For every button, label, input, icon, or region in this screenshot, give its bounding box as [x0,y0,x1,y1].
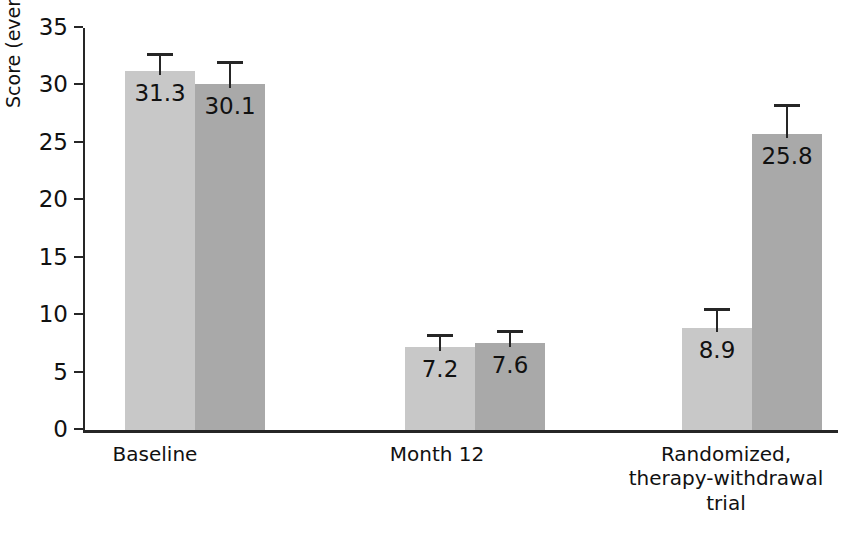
error-bar-stem [159,53,161,74]
plot-area: 05101520253035 31.3 30.1 [83,28,838,430]
bar-value-label: 31.3 [125,82,195,105]
bar-group-baseline: 31.3 30.1 [125,28,265,430]
y-axis-line [83,28,85,430]
x-axis-category-label-month-12: Month 12 [337,442,537,466]
cropped-caption-artifact [60,0,360,3]
bar-group-month-12: 7.2 7.6 [405,28,545,430]
error-bar-stem [716,308,718,332]
bar-rect [125,71,195,431]
y-axis-tick-label: 30 [39,73,68,96]
error-bar-cap [147,53,173,56]
y-axis-tick-label: 5 [53,360,68,383]
x-axis-category-label-baseline: Baseline [55,442,255,466]
y-axis-tick-label: 35 [39,16,68,39]
bar-rect [752,134,822,430]
error-bar-stem [786,104,788,138]
bar-value-label: 30.1 [195,95,265,118]
y-axis-tick: 30 [74,83,83,85]
y-axis-tick: 10 [74,313,83,315]
x-axis-category-label-line: Randomized, [612,442,840,466]
y-axis-tick: 35 [74,26,83,28]
x-axis-category-label-randomized-trial: Randomized,therapy-withdrawaltrial [612,442,840,515]
y-axis-tick-label: 0 [53,418,68,441]
error-bar-cap [704,308,730,311]
bar-rect [195,84,265,430]
x-axis-category-label-line: trial [612,491,840,515]
bar-group-randomized-therapy-withdrawal-trial: 8.9 25.8 [682,28,822,430]
y-axis-tick-label: 20 [39,188,68,211]
bar-value-label: 7.6 [475,354,545,377]
bar-value-label: 8.9 [682,339,752,362]
y-axis-tick-label: 15 [39,245,68,268]
y-axis-tick: 15 [74,256,83,258]
error-bar-stem [229,61,231,88]
x-axis-category-label-line: therapy-withdrawal [612,466,840,490]
error-bar-cap [217,61,243,64]
y-axis-tick: 5 [74,371,83,373]
error-bar-cap [774,104,800,107]
y-axis-tick-label: 25 [39,130,68,153]
bar-value-label: 7.2 [405,358,475,381]
x-axis-category-label-line: Month 12 [337,442,537,466]
error-bar-cap [497,330,523,333]
y-axis-title: Score (events/hr) [4,0,23,108]
x-axis-line [83,430,838,433]
bar-chart-figure: Score (events/hr) 05101520253035 31.3 [0,0,855,538]
y-axis-tick: 0 [74,428,83,430]
bar-value-label: 25.8 [752,145,822,168]
y-axis-tick: 20 [74,198,83,200]
y-axis-tick: 25 [74,141,83,143]
error-bar-cap [427,334,453,337]
x-axis-category-label-line: Baseline [55,442,255,466]
y-axis-tick-label: 10 [39,303,68,326]
